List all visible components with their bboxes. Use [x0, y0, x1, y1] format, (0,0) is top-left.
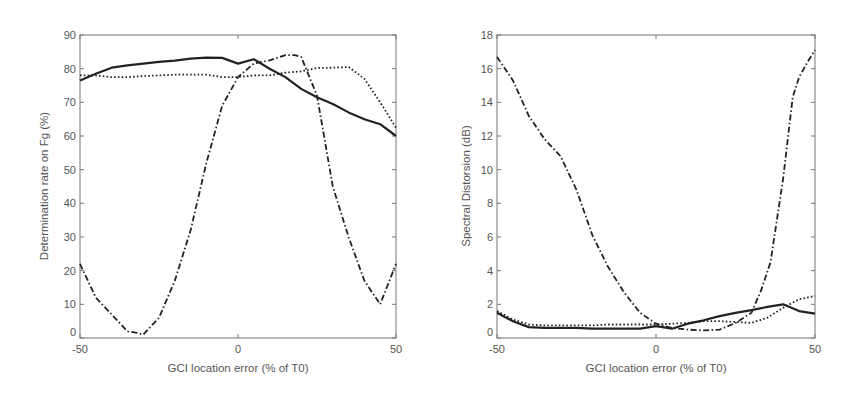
x-axis-label: GCI location error (% of T0) — [167, 362, 308, 374]
series-lines — [80, 55, 396, 334]
series-line-dash-dot — [497, 50, 815, 330]
y-tick-label: 70 — [64, 96, 76, 108]
series-lines — [497, 50, 815, 330]
y-tick-label: 50 — [64, 164, 76, 176]
y-tick-label: 10 — [481, 164, 493, 176]
y-tick-label: 90 — [64, 29, 76, 41]
y-tick-label: 12 — [481, 130, 493, 142]
y-tick-label: 0 — [70, 326, 76, 338]
y-tick-label: 14 — [481, 96, 493, 108]
spectral-distortion-plot: 024681012141618 -50050 GCI location erro… — [460, 29, 821, 374]
y-tick-label: 6 — [487, 231, 493, 243]
y-axis-ticks: 024681012141618 — [481, 29, 815, 338]
x-axis-label: GCI location error (% of T0) — [585, 362, 726, 374]
y-tick-label: 8 — [487, 197, 493, 209]
x-tick-label: -50 — [72, 343, 88, 355]
x-tick-label: -50 — [489, 343, 505, 355]
y-tick-label: 18 — [481, 29, 493, 41]
plot-frame — [80, 35, 396, 338]
y-tick-label: 80 — [64, 63, 76, 75]
determination-rate-plot: 0102030405060708090 -50050 GCI location … — [38, 29, 402, 374]
y-tick-label: 10 — [64, 298, 76, 310]
y-tick-label: 16 — [481, 63, 493, 75]
series-line-dotted — [497, 296, 815, 326]
figure: 0102030405060708090 -50050 GCI location … — [0, 0, 852, 395]
y-axis-label: Spectral Distorsion (dB) — [460, 125, 472, 247]
y-tick-label: 2 — [487, 298, 493, 310]
x-tick-label: 0 — [235, 343, 241, 355]
y-tick-label: 40 — [64, 197, 76, 209]
series-line-solid — [80, 58, 396, 136]
plot-frame — [497, 35, 815, 338]
y-axis-ticks: 0102030405060708090 — [64, 29, 396, 338]
x-tick-label: 50 — [809, 343, 821, 355]
y-tick-label: 4 — [487, 265, 493, 277]
y-tick-label: 0 — [487, 326, 493, 338]
x-tick-label: 50 — [390, 343, 402, 355]
y-tick-label: 60 — [64, 130, 76, 142]
y-tick-label: 20 — [64, 265, 76, 277]
y-axis-label: Determination rate on Fg (%) — [38, 112, 50, 260]
series-line-dash-dot — [80, 55, 396, 334]
x-axis-ticks: -50050 — [72, 35, 402, 355]
y-tick-label: 30 — [64, 231, 76, 243]
x-tick-label: 0 — [653, 343, 659, 355]
